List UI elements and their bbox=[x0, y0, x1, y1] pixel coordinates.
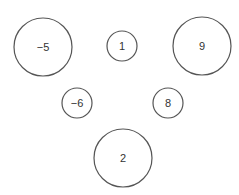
node-minus5: −5 bbox=[14, 18, 72, 76]
diagram-canvas: −5 1 9 −6 8 2 bbox=[0, 0, 239, 195]
node-label: 8 bbox=[165, 97, 171, 109]
node-1: 1 bbox=[107, 31, 137, 61]
node-label: 9 bbox=[199, 40, 205, 52]
node-2: 2 bbox=[94, 129, 152, 187]
node-label: 1 bbox=[119, 40, 125, 52]
node-9: 9 bbox=[173, 17, 231, 75]
node-label: −5 bbox=[37, 41, 50, 53]
node-minus6: −6 bbox=[62, 88, 92, 118]
node-8: 8 bbox=[153, 88, 183, 118]
circle-diagram: −5 1 9 −6 8 2 bbox=[0, 0, 239, 195]
node-label: −6 bbox=[71, 97, 84, 109]
node-label: 2 bbox=[120, 152, 126, 164]
